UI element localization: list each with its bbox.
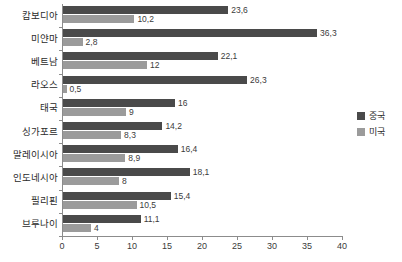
bar (63, 201, 137, 209)
category-label: 라오스 (0, 80, 58, 90)
bar-value-label: 9 (129, 108, 134, 116)
category-label: 브루나이 (0, 219, 58, 229)
category-label: 말레이시아 (0, 150, 58, 160)
x-axis-tick-label: 15 (155, 241, 179, 252)
bar-group: 18,18 (63, 166, 343, 189)
bar (63, 131, 121, 139)
y-axis-tick (59, 120, 62, 121)
bar (63, 122, 162, 130)
chart-legend: 중국미국 (357, 108, 402, 140)
bar-group: 14,28,3 (63, 120, 343, 143)
bar-value-label: 36,3 (320, 29, 337, 37)
x-axis-tick-mark (272, 236, 273, 240)
x-axis-tick-mark (342, 236, 343, 240)
x-axis-tick-label: 5 (85, 241, 109, 252)
legend-label: 중국 (369, 111, 385, 121)
bar (63, 38, 83, 46)
bar-group: 23,610,2 (63, 4, 343, 27)
legend-label: 미국 (369, 127, 385, 137)
y-axis-tick (59, 190, 62, 191)
category-axis-labels: 캄보디아미얀마베트남라오스태국싱가포르말레이시아인도네시아필리핀브루나이 (0, 4, 60, 236)
bar (63, 52, 218, 60)
x-axis-tick-label: 40 (330, 241, 354, 252)
bar (63, 99, 175, 107)
bar-chart: 캄보디아미얀마베트남라오스태국싱가포르말레이시아인도네시아필리핀브루나이 23,… (0, 0, 402, 262)
bar-group: 36,32,8 (63, 27, 343, 50)
bar (63, 85, 67, 93)
bar-value-label: 0,5 (70, 85, 82, 93)
bar (63, 154, 125, 162)
bar-value-label: 16,4 (181, 145, 198, 153)
legend-item[interactable]: 중국 (357, 108, 402, 124)
category-label: 싱가포르 (0, 127, 58, 137)
x-axis-tick-mark (167, 236, 168, 240)
category-label: 태국 (0, 103, 58, 113)
y-axis-tick (59, 50, 62, 51)
bar-value-label: 2,8 (86, 38, 98, 46)
bar (63, 177, 119, 185)
x-axis-tick-label: 10 (120, 241, 144, 252)
bar-value-label: 23,6 (231, 6, 248, 14)
bar (63, 15, 134, 23)
bar-value-label: 15,4 (174, 192, 191, 200)
legend-item[interactable]: 미국 (357, 124, 402, 140)
y-axis-tick (59, 27, 62, 28)
bar-group: 11,14 (63, 213, 343, 236)
y-axis-tick (59, 74, 62, 75)
x-axis-ticks: 0510152025303540 (62, 236, 344, 258)
x-axis-tick-mark (202, 236, 203, 240)
y-axis-tick (59, 97, 62, 98)
bar-value-label: 8 (122, 177, 127, 185)
bar-group: 15,410,5 (63, 190, 343, 213)
bar-group: 169 (63, 97, 343, 120)
y-axis-tick (59, 213, 62, 214)
category-label: 캄보디아 (0, 11, 58, 21)
legend-swatch-icon (357, 112, 365, 120)
bar (63, 145, 178, 153)
bar (63, 61, 147, 69)
bar-value-label: 22,1 (221, 52, 238, 60)
bar-value-label: 14,2 (165, 122, 182, 130)
bar-value-label: 11,1 (144, 215, 160, 223)
y-axis-tick (59, 166, 62, 167)
x-axis-tick-label: 20 (190, 241, 214, 252)
bar-value-label: 10,2 (137, 15, 154, 23)
category-label: 베트남 (0, 57, 58, 67)
x-axis-tick-mark (237, 236, 238, 240)
bar-value-label: 16 (178, 99, 187, 107)
bar (63, 215, 141, 223)
x-axis-tick-label: 0 (50, 241, 74, 252)
x-axis-tick-label: 30 (260, 241, 284, 252)
category-label: 필리핀 (0, 196, 58, 206)
bar-group: 26,30,5 (63, 74, 343, 97)
x-axis-tick-label: 35 (295, 241, 319, 252)
x-axis-tick-mark (307, 236, 308, 240)
category-label: 미얀마 (0, 34, 58, 44)
x-axis-tick-mark (132, 236, 133, 240)
bar (63, 76, 247, 84)
bar-value-label: 12 (150, 61, 159, 69)
bar (63, 192, 171, 200)
x-axis-tick-label: 25 (225, 241, 249, 252)
x-axis-tick-mark (97, 236, 98, 240)
bar-value-label: 4 (94, 224, 99, 232)
x-axis-tick-mark (62, 236, 63, 240)
bar-group: 22,112 (63, 50, 343, 73)
bar (63, 108, 126, 116)
bar-value-label: 8,3 (124, 131, 136, 139)
category-label: 인도네시아 (0, 173, 58, 183)
y-axis-tick (59, 143, 62, 144)
legend-swatch-icon (357, 128, 365, 136)
bar (63, 224, 91, 232)
bar (63, 168, 190, 176)
bar-value-label: 8,9 (128, 154, 140, 162)
bar-value-label: 26,3 (250, 76, 267, 84)
bar (63, 29, 317, 37)
bar-value-label: 18,1 (193, 168, 210, 176)
bar-group: 16,48,9 (63, 143, 343, 166)
bar-value-label: 10,5 (140, 201, 157, 209)
bar (63, 6, 228, 14)
plot-area: 23,610,236,32,822,11226,30,516914,28,316… (62, 4, 343, 236)
